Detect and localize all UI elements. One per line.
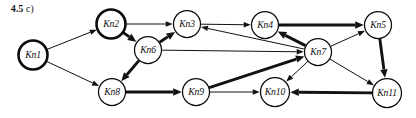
graph-node-kn5[interactable]: Kn5 <box>365 12 392 39</box>
figure-container: 4.5 c) Kn1Kn2Kn3Kn4Kn5Kn6Kn7Kn8Kn9Kn10Kn… <box>0 0 416 118</box>
graph-edge <box>47 61 93 83</box>
graph-node-kn4[interactable]: Kn4 <box>252 12 279 39</box>
graph-node-kn1[interactable]: Kn1 <box>19 41 48 70</box>
graph-edge <box>127 61 139 75</box>
graph-edge-arrowhead <box>253 89 260 94</box>
graph-node-label: Kn1 <box>24 49 41 60</box>
graph-edge <box>380 39 384 70</box>
graph-node-kn10[interactable]: Kn10 <box>261 78 290 107</box>
graph-node-kn8[interactable]: Kn8 <box>99 79 126 106</box>
directed-graph-diagram: Kn1Kn2Kn3Kn4Kn5Kn6Kn7Kn8Kn9Kn10Kn11 <box>0 0 416 118</box>
graph-edge <box>123 33 129 37</box>
graph-edge <box>160 37 168 43</box>
graph-edge-arrowhead <box>366 79 373 85</box>
graph-node-kn7[interactable]: Kn7 <box>305 39 332 66</box>
graph-node-label: Kn4 <box>256 19 273 30</box>
graph-edge-arrowhead <box>89 30 97 35</box>
graph-node-label: Kn8 <box>103 86 120 97</box>
graph-edge-arrowhead <box>166 21 173 26</box>
graph-node-kn2[interactable]: Kn2 <box>97 10 126 39</box>
graph-node-label: Kn9 <box>187 86 204 97</box>
graph-node-label: Kn11 <box>376 87 397 98</box>
graph-node-label: Kn10 <box>264 86 286 97</box>
graph-edge <box>47 32 90 49</box>
graph-edge-arrowhead <box>244 22 251 27</box>
graph-edge-arrowhead <box>380 69 387 78</box>
graph-node-kn6[interactable]: Kn6 <box>135 37 162 64</box>
graph-edge-arrowhead <box>290 89 299 96</box>
graph-node-kn9[interactable]: Kn9 <box>183 79 210 106</box>
graph-edge <box>331 34 359 47</box>
graph-edge-arrowhead <box>173 88 182 95</box>
graph-edge-arrowhead <box>92 81 99 86</box>
graph-node-label: Kn7 <box>309 46 327 57</box>
graph-node-label: Kn5 <box>369 19 386 30</box>
graph-edge-arrowhead <box>295 56 304 63</box>
graph-edge <box>330 59 368 81</box>
graph-node-label: Kn6 <box>139 44 156 55</box>
graph-node-kn3[interactable]: Kn3 <box>174 11 201 38</box>
graph-node-label: Kn2 <box>102 18 119 29</box>
graph-edge-arrowhead <box>297 49 304 54</box>
graph-edge-arrowhead <box>355 21 364 28</box>
graph-edge <box>162 50 297 52</box>
graph-node-kn11[interactable]: Kn11 <box>373 79 402 108</box>
graph-edge-arrowhead <box>357 31 364 36</box>
graph-edge <box>291 62 307 77</box>
graph-edge-arrowhead <box>201 26 208 31</box>
graph-edge <box>299 92 372 93</box>
graph-node-label: Kn3 <box>178 18 195 29</box>
graph-edge <box>201 24 244 25</box>
graph-edge <box>285 35 305 45</box>
